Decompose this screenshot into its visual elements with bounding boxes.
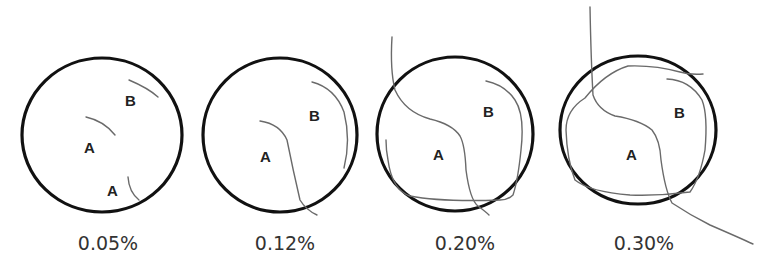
crack-b: [386, 81, 522, 201]
label-b: B: [125, 92, 136, 109]
crack-b: [566, 66, 706, 195]
label-a2: A: [107, 182, 118, 199]
crack-a: [391, 37, 489, 215]
caption-panel-2: 0.12%: [225, 232, 345, 254]
crack-a: [86, 117, 115, 135]
specimen-outline: [203, 58, 357, 212]
label-a: A: [84, 139, 95, 156]
caption-panel-4: 0.30%: [584, 232, 704, 254]
crack-a: [260, 121, 317, 215]
caption-panel-3: 0.20%: [405, 232, 525, 254]
caption-panel-1: 0.05%: [48, 232, 168, 254]
label-b: B: [309, 107, 320, 124]
specimen-outline: [560, 56, 716, 204]
label-a: A: [626, 146, 637, 163]
specimen-outline: [377, 57, 533, 211]
label-a: A: [433, 146, 444, 163]
label-b: B: [674, 104, 685, 121]
specimen-outline: [22, 58, 182, 212]
crack-b: [312, 82, 348, 168]
label-a: A: [260, 148, 271, 165]
panel-2: B A: [203, 58, 357, 215]
crack-a: [590, 7, 753, 244]
label-b: B: [483, 103, 494, 120]
crack-a2: [128, 177, 139, 200]
panel-1: B A A: [22, 58, 182, 212]
panel-3: B A: [377, 37, 533, 215]
panel-4: B A: [560, 7, 753, 244]
